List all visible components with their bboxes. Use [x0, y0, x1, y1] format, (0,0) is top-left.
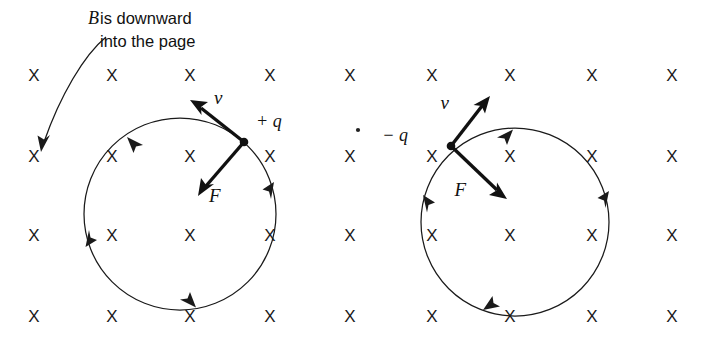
positive-velocity-vector [201, 108, 244, 142]
positive-force-label: F [208, 185, 221, 206]
magnetic-field-x-grid: XXXXXXXXXXXXXXXXXXXXXXXXXXXXXXXXXXXX [28, 66, 677, 326]
field-x-mark: X [586, 226, 597, 245]
field-x-mark: X [666, 66, 677, 85]
field-x-mark: X [666, 147, 677, 166]
negative-orbit-arrow-left [423, 195, 435, 213]
field-x-mark: X [344, 147, 355, 166]
field-x-mark: X [28, 66, 39, 85]
caption-pointer-arrow [44, 37, 106, 142]
field-x-mark: X [184, 147, 195, 166]
field-x-mark: X [344, 226, 355, 245]
negative-velocity-label: v [441, 92, 450, 113]
positive-velocity-label: v [214, 87, 223, 108]
physics-figure-canvas: XXXXXXXXXXXXXXXXXXXXXXXXXXXXXXXXXXXX B i… [0, 0, 706, 348]
field-x-mark: X [28, 307, 39, 326]
positive-orbit-arrow-right [263, 182, 275, 199]
negative-charge-label: − q [382, 125, 408, 145]
negative-velocity-arrowhead [474, 96, 491, 114]
ink-speck [356, 128, 360, 132]
positive-charge-group: + q v F [84, 87, 282, 310]
negative-orbit-arrow-bottom [483, 296, 500, 310]
positive-particle-dot [240, 138, 249, 147]
field-x-mark: X [264, 307, 275, 326]
field-x-mark: X [106, 307, 117, 326]
field-x-mark: X [264, 66, 275, 85]
field-x-mark: X [586, 66, 597, 85]
negative-charge-group: − q v F [382, 92, 609, 316]
field-x-mark: X [106, 66, 117, 85]
field-x-mark: X [666, 307, 677, 326]
field-x-mark: X [504, 66, 515, 85]
field-x-mark: X [264, 147, 275, 166]
field-x-mark: X [28, 226, 39, 245]
positive-orbit-arrow-top [127, 137, 143, 153]
positive-force-vector [206, 142, 244, 186]
field-x-mark: X [28, 147, 39, 166]
field-x-mark: X [426, 307, 437, 326]
field-x-mark: X [504, 226, 515, 245]
negative-particle-dot [447, 142, 456, 151]
caption-b-symbol: B [88, 8, 99, 28]
negative-orbit-arrow-top [497, 130, 513, 146]
field-x-mark: X [426, 226, 437, 245]
field-x-mark: X [426, 147, 437, 166]
positive-charge-label: + q [256, 111, 282, 131]
caption-line-1: is downward [100, 9, 192, 27]
field-x-mark: X [504, 307, 515, 326]
field-x-mark: X [504, 147, 515, 166]
field-x-mark: X [344, 307, 355, 326]
figure-svg: XXXXXXXXXXXXXXXXXXXXXXXXXXXXXXXXXXXX B i… [0, 0, 706, 348]
negative-velocity-vector [451, 106, 482, 146]
field-x-mark: X [184, 226, 195, 245]
field-x-mark: X [106, 226, 117, 245]
field-x-mark: X [586, 307, 597, 326]
field-x-mark: X [184, 66, 195, 85]
negative-force-label: F [453, 179, 466, 200]
caption-line-2: into the page [100, 32, 195, 50]
field-x-mark: X [666, 226, 677, 245]
field-x-mark: X [426, 66, 437, 85]
field-x-mark: X [344, 66, 355, 85]
positive-orbit-arrow-bottom [180, 292, 196, 308]
